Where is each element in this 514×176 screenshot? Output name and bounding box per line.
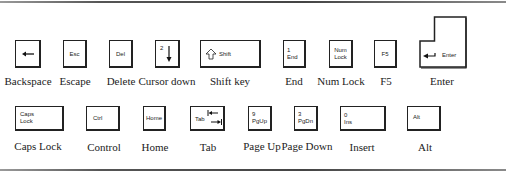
escape-label: Escape	[59, 75, 90, 87]
cursor-down-label: Cursor down	[138, 75, 195, 87]
f5-key: F5	[374, 40, 397, 68]
end-cap: 1 End	[287, 47, 298, 61]
caps-lock-cap: Caps Lock	[20, 111, 34, 125]
delete-key: Del	[109, 40, 133, 68]
insert-label: Insert	[349, 141, 374, 153]
num-lock-key: Num Lock	[329, 40, 353, 68]
tab-label: Tab	[200, 141, 216, 153]
caps-lock-label: Caps Lock	[14, 140, 61, 152]
caps-lock-key: Caps Lock	[15, 106, 64, 131]
page-up-cap: 9 PgUp	[252, 111, 267, 125]
top-rule	[0, 1, 506, 3]
home-cap: Home	[144, 115, 164, 122]
enter-cap: Enter	[442, 52, 456, 58]
home-key: Home	[143, 106, 166, 131]
bottom-rule	[0, 169, 506, 171]
tab-arrows-icon	[191, 107, 226, 132]
insert-cap: 0 Ins	[344, 112, 352, 126]
down-arrow-icon	[156, 41, 181, 69]
page-down-cap: 3 PgDn	[298, 111, 313, 125]
control-label: Control	[87, 141, 121, 153]
delete-label: Delete	[107, 75, 136, 87]
escape-key: Esc	[63, 40, 87, 68]
enter-label: Enter	[430, 75, 454, 87]
shift-key: Shift	[200, 40, 261, 68]
delete-cap: Del	[110, 50, 131, 57]
insert-key: 0 Ins	[340, 106, 386, 131]
alt-key: Alt	[407, 106, 441, 131]
home-label: Home	[142, 141, 169, 153]
end-key: 1 End	[283, 40, 306, 68]
backspace-label: Backspace	[4, 75, 51, 87]
num-lock-cap: Num Lock	[330, 47, 351, 61]
return-arrow-icon	[419, 16, 469, 70]
tab-key: Tab	[190, 106, 225, 131]
f5-label: F5	[380, 75, 392, 87]
cursor-down-key: 2	[155, 40, 180, 68]
enter-key: Enter	[419, 16, 469, 70]
page-up-key: 9 PgUp	[248, 106, 272, 131]
shift-arrow-icon	[201, 41, 262, 69]
control-key: Ctrl	[86, 106, 120, 131]
escape-cap: Esc	[64, 50, 85, 57]
shift-label: Shift key	[210, 75, 250, 87]
shift-cap: Shift	[219, 51, 231, 58]
control-cap: Ctrl	[93, 115, 102, 122]
num-lock-label: Num Lock	[317, 75, 364, 87]
page-down-key: 3 PgDn	[294, 106, 318, 131]
alt-label: Alt	[418, 141, 432, 153]
left-arrow-icon	[16, 41, 42, 69]
end-label: End	[285, 75, 303, 87]
f5-cap: F5	[375, 50, 395, 57]
backspace-key	[15, 40, 41, 68]
alt-cap: Alt	[413, 114, 420, 121]
page-up-label: Page Up	[243, 140, 281, 152]
page-down-label: Page Down	[281, 140, 332, 152]
